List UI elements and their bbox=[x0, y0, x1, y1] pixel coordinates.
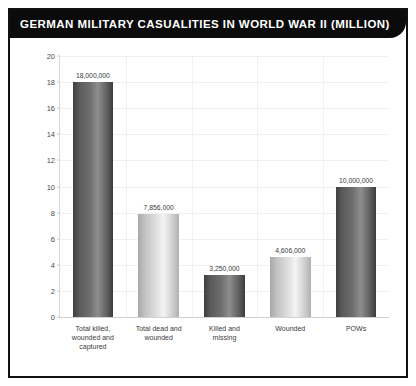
y-axis-tick-mark bbox=[57, 290, 60, 291]
chart-title-bar: GERMAN MILITARY CASUALITIES IN WORLD WAR… bbox=[10, 10, 406, 38]
y-axis-tick-label: 0 bbox=[51, 313, 55, 322]
y-axis-tick-label: 20 bbox=[47, 52, 55, 61]
bar-value-label: 7,856,000 bbox=[144, 204, 174, 211]
y-axis-tick-label: 14 bbox=[47, 130, 55, 139]
y-axis-tick-mark bbox=[57, 212, 60, 213]
gridline-vertical bbox=[126, 56, 127, 317]
y-axis-tick-mark bbox=[57, 134, 60, 135]
y-axis-tick-label: 2 bbox=[51, 286, 55, 295]
y-axis-tick-mark bbox=[57, 56, 60, 57]
y-axis-tick-mark bbox=[57, 317, 60, 318]
gridline-vertical bbox=[257, 56, 258, 317]
y-axis-tick-label: 6 bbox=[51, 234, 55, 243]
y-axis-tick-mark bbox=[57, 186, 60, 187]
y-axis-tick-mark bbox=[57, 160, 60, 161]
chart-frame: GERMAN MILITARY CASUALITIES IN WORLD WAR… bbox=[8, 8, 408, 378]
x-axis-category-label: Wounded bbox=[253, 324, 327, 333]
y-axis-tick-label: 10 bbox=[47, 182, 55, 191]
y-axis-tick-label: 18 bbox=[47, 78, 55, 87]
y-axis-tick-mark bbox=[57, 264, 60, 265]
plot-area: 0246810121416182018,000,000Total killed,… bbox=[59, 56, 389, 318]
bar[interactable]: 4,606,000Wounded bbox=[270, 257, 311, 317]
y-axis-tick-mark bbox=[57, 108, 60, 109]
bar[interactable]: 18,000,000Total killed, wounded and capt… bbox=[73, 82, 114, 317]
bar-value-label: 18,000,000 bbox=[76, 72, 110, 79]
y-axis-tick-label: 4 bbox=[51, 260, 55, 269]
gridline-horizontal bbox=[60, 56, 389, 57]
x-axis-category-label: Total killed, wounded and captured bbox=[56, 324, 130, 351]
y-axis-tick-mark bbox=[57, 238, 60, 239]
y-axis-tick-label: 12 bbox=[47, 156, 55, 165]
gridline-vertical bbox=[192, 56, 193, 317]
bar[interactable]: 3,250,000Killed and missing bbox=[204, 275, 245, 317]
x-axis-category-label: POWs bbox=[319, 324, 393, 333]
bar-value-label: 3,250,000 bbox=[209, 265, 239, 272]
bar-value-label: 4,606,000 bbox=[275, 247, 305, 254]
x-axis-category-label: Killed and missing bbox=[187, 324, 261, 342]
page-title: GERMAN MILITARY CASUALITIES IN WORLD WAR… bbox=[10, 18, 390, 30]
chart-canvas: 0246810121416182018,000,000Total killed,… bbox=[10, 38, 406, 376]
bar[interactable]: 7,856,000Total dead and wounded bbox=[138, 214, 179, 317]
x-axis-category-label: Total dead and wounded bbox=[122, 324, 196, 342]
gridline-vertical bbox=[323, 56, 324, 317]
bar[interactable]: 10,000,000POWs bbox=[336, 187, 377, 318]
y-axis-tick-mark bbox=[57, 82, 60, 83]
y-axis-tick-label: 16 bbox=[47, 104, 55, 113]
bar-value-label: 10,000,000 bbox=[339, 177, 373, 184]
y-axis-tick-label: 8 bbox=[51, 208, 55, 217]
